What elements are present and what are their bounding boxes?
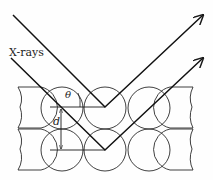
theta-label: θ (65, 89, 71, 100)
incident-ray-1 (13, 15, 203, 107)
diagram-canvas: X-rays θ d (0, 0, 213, 180)
left-partial-atoms (18, 87, 57, 170)
atom (128, 129, 170, 171)
x-rays-label: X-rays (9, 46, 44, 59)
d-label: d (53, 115, 60, 128)
incident-ray-2 (11, 58, 203, 150)
bragg-diagram: X-rays θ d (0, 0, 213, 180)
